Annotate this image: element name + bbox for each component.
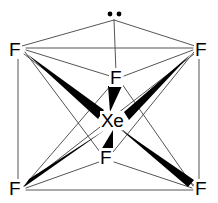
lone-pair-dot-left <box>108 12 113 17</box>
fluorine-bottom-left-label: F <box>8 179 22 198</box>
outline-apex-to-top-right <box>114 20 195 46</box>
lone-pair-dots <box>100 6 130 22</box>
wedge-bond-bottom-right <box>120 129 194 187</box>
wedge-bond-top-left <box>27 54 104 119</box>
fluorine-top-right-label: F <box>194 40 208 59</box>
xef6-structure-figure: F F F F F F Xe <box>0 0 218 203</box>
fluorine-top-left-label: F <box>8 40 22 59</box>
outline-upper-center-to-bottom-right <box>122 84 193 186</box>
wedge-bond-upper-center <box>108 86 122 112</box>
lone-pair-dot-right <box>117 12 122 17</box>
fluorine-upper-center-label: F <box>109 68 123 87</box>
structure-drawing <box>0 0 218 203</box>
xenon-central-label: Xe <box>100 111 124 130</box>
fluorine-bottom-right-label: F <box>194 179 208 198</box>
outline-apex-to-upper-center <box>114 20 116 72</box>
fluorine-lower-center-label: F <box>99 148 113 167</box>
outline-lower-center-to-top-right <box>113 52 194 152</box>
outline-apex-to-top-left <box>22 20 114 46</box>
outline-upper-center-to-bottom-left <box>24 84 112 186</box>
